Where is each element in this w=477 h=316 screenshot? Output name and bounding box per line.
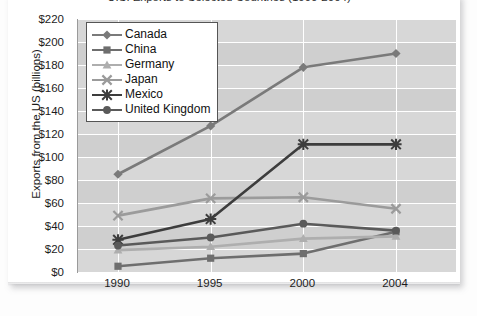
series-united-kingdom: [114, 220, 400, 250]
legend-label: Mexico: [125, 88, 163, 101]
legend-marker-x-icon: [99, 73, 115, 87]
legend-marker-diamond-icon: [99, 28, 115, 42]
y-tick-label: $120: [8, 129, 64, 139]
legend-marker-triangle-icon: [99, 58, 115, 72]
legend-item-united-kingdom[interactable]: United Kingdom: [92, 102, 210, 117]
data-point-diamond: [102, 30, 111, 39]
legend-swatch-triangle-icon: [92, 58, 122, 72]
data-point-diamond: [113, 170, 122, 179]
gridline-horizontal: [78, 272, 456, 273]
y-tick-label: $160: [8, 83, 64, 93]
chart-legend: CanadaChinaGermanyJapanMexicoUnited King…: [86, 22, 218, 122]
data-point-diamond: [391, 49, 400, 58]
legend-item-mexico[interactable]: Mexico: [92, 87, 210, 102]
data-point-asterisk: [101, 89, 112, 100]
data-point-square: [207, 255, 214, 262]
legend-swatch-diamond-icon: [92, 28, 122, 42]
data-point-circle: [392, 227, 400, 235]
legend-item-japan[interactable]: Japan: [92, 72, 210, 87]
y-tick-label: $0: [8, 267, 64, 277]
x-tick-label: 1995: [180, 277, 240, 289]
x-tick-label: 1990: [87, 277, 147, 289]
y-tick-label: $180: [8, 60, 64, 70]
data-point-circle: [103, 106, 111, 114]
legend-marker-asterisk-icon: [99, 88, 115, 102]
y-tick-label: $40: [8, 221, 64, 231]
data-point-asterisk: [205, 214, 216, 225]
legend-swatch-square-icon: [92, 43, 122, 57]
legend-marker-square-icon: [99, 43, 115, 57]
y-tick-label: $140: [8, 106, 64, 116]
y-tick-label: $60: [8, 198, 64, 208]
legend-item-china[interactable]: China: [92, 42, 210, 57]
series-line: [118, 144, 396, 239]
series-line: [118, 197, 396, 215]
legend-label: United Kingdom: [125, 103, 210, 116]
legend-swatch-circle-icon: [92, 103, 122, 117]
data-point-square: [300, 250, 307, 257]
data-point-square: [114, 263, 121, 270]
legend-item-canada[interactable]: Canada: [92, 27, 210, 42]
chart-title: U.S. Exports to Selected Countries (1990…: [64, 0, 394, 3]
legend-item-germany[interactable]: Germany: [92, 57, 210, 72]
data-point-triangle: [103, 60, 112, 68]
legend-label: Germany: [125, 58, 174, 71]
x-tick-label: 2004: [365, 277, 425, 289]
data-point-circle: [207, 234, 215, 242]
y-tick-label: $200: [8, 37, 64, 47]
legend-label: Canada: [125, 28, 167, 41]
legend-label: Japan: [125, 73, 158, 86]
y-tick-label: $220: [8, 14, 64, 24]
data-point-asterisk: [298, 139, 309, 150]
legend-swatch-x-icon: [92, 73, 122, 87]
y-tick-label: $80: [8, 175, 64, 185]
x-tick-label: 2000: [272, 277, 332, 289]
series-japan: [113, 193, 400, 221]
chart-screenshot: U.S. Exports to Selected Countries (1990…: [0, 0, 477, 316]
y-tick-label: $100: [8, 152, 64, 162]
legend-marker-circle-icon: [99, 103, 115, 117]
legend-label: China: [125, 43, 156, 56]
series-line: [118, 236, 396, 250]
data-point-asterisk: [390, 139, 401, 150]
data-point-circle: [299, 220, 307, 228]
legend-swatch-asterisk-icon: [92, 88, 122, 102]
data-point-square: [103, 46, 110, 53]
data-point-x: [102, 75, 111, 84]
data-point-circle: [114, 242, 122, 250]
y-tick-label: $20: [8, 244, 64, 254]
